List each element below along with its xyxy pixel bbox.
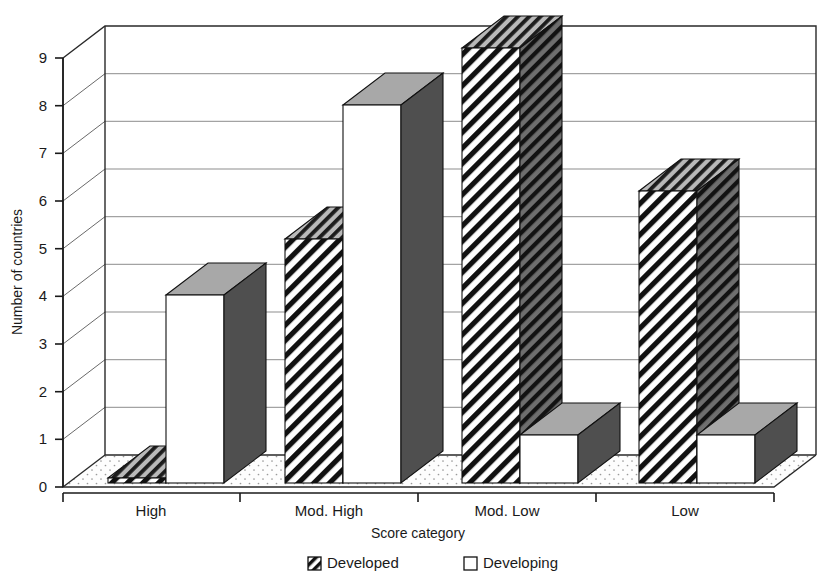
x-category-modhigh: Mod. High [295, 502, 363, 519]
x-category-high: High [136, 502, 167, 519]
legend-swatch-empty [464, 557, 477, 570]
chart-figure: 9 8 7 6 5 4 3 2 1 0 Number of countries … [0, 0, 836, 585]
legend-item-developing[interactable]: Developing [464, 554, 558, 571]
legend-swatch-hatched [308, 557, 321, 570]
y-axis-title: Number of countries [9, 209, 25, 335]
bar-chart-canvas: 9 8 7 6 5 4 3 2 1 0 Number of countries … [0, 0, 836, 585]
x-category-modlow: Mod. Low [474, 502, 539, 519]
bar-high-developing[interactable] [166, 263, 266, 483]
y-tick-7: 7 [39, 144, 47, 161]
y-tick-4: 4 [39, 287, 47, 304]
x-axis-title: Score category [371, 525, 465, 541]
y-tick-6: 6 [39, 192, 47, 209]
bar-modhigh-developing[interactable] [343, 73, 443, 483]
y-axis: 9 8 7 6 5 4 3 2 1 0 Number of countries [9, 49, 63, 495]
bar-modlow-developed[interactable] [462, 16, 562, 483]
y-tick-0: 0 [39, 478, 47, 495]
legend-item-developed[interactable]: Developed [308, 554, 399, 571]
x-category-low: Low [671, 502, 699, 519]
y-tick-2: 2 [39, 383, 47, 400]
x-axis: High Mod. High Mod. Low Low Score catego… [63, 493, 774, 541]
legend-label-developed: Developed [327, 554, 399, 571]
y-tick-9: 9 [39, 49, 47, 66]
legend: Developed Developing [308, 554, 558, 571]
y-tick-3: 3 [39, 335, 47, 352]
left-wall [63, 26, 105, 487]
legend-label-developing: Developing [483, 554, 558, 571]
y-tick-8: 8 [39, 97, 47, 114]
y-tick-1: 1 [39, 430, 47, 447]
y-tick-5: 5 [39, 240, 47, 257]
